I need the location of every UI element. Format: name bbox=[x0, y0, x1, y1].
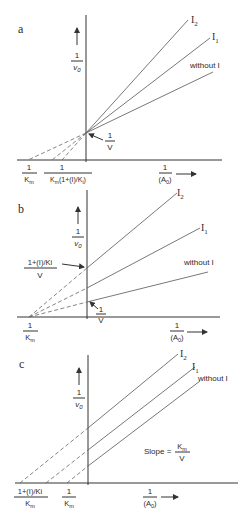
intercept-label-num: 1 bbox=[99, 305, 104, 314]
x-tick-den: Km bbox=[25, 333, 35, 343]
panel-c: c 1 v0 I2 I1 without I Slope = Km V 1+(I… bbox=[14, 348, 238, 509]
y-axis-label-num: 1 bbox=[76, 227, 81, 236]
y-axis-label-den: v0 bbox=[73, 63, 81, 73]
x-tick-num: 1+(I)/Ki bbox=[18, 487, 43, 496]
y-axis-label-num: 1 bbox=[77, 388, 82, 397]
slope-den: V bbox=[179, 454, 185, 463]
x-axis-label-den: (A0) bbox=[158, 175, 172, 185]
line-label-I1: I1 bbox=[192, 361, 199, 375]
x-tick-num: 1 bbox=[28, 321, 33, 330]
x-tick-num: 1 bbox=[67, 487, 72, 496]
x-axis-label-num: 1 bbox=[148, 487, 153, 496]
x-tick-num: 1 bbox=[60, 163, 65, 172]
x-axis-label-den: (A0) bbox=[170, 333, 184, 343]
panel-label: b bbox=[18, 202, 24, 216]
pointer-arrow-icon bbox=[62, 264, 84, 267]
pointer-arrow-icon bbox=[90, 302, 98, 309]
panel-a: a 1 v0 I2 I1 without I 1 V 1 Km 1 Km(1+(… bbox=[17, 14, 222, 185]
intercept-inhibited-num: 1+(I)/Ki bbox=[28, 258, 53, 267]
line-label-I2: I2 bbox=[177, 187, 184, 201]
intercept-label-num: 1 bbox=[108, 131, 113, 140]
x-tick-den: Km bbox=[25, 499, 35, 509]
x-axis-label-num: 1 bbox=[175, 321, 180, 330]
x-axis-label-num: 1 bbox=[163, 163, 168, 172]
x-tick-den: Km bbox=[64, 499, 74, 509]
intercept-inhibited-den: V bbox=[37, 271, 43, 280]
y-axis-label-num: 1 bbox=[75, 51, 80, 60]
panel-label: c bbox=[19, 357, 24, 371]
line-label-without-I: without I bbox=[189, 61, 220, 70]
line-without-I bbox=[87, 272, 208, 302]
line-label-I1: I1 bbox=[201, 222, 208, 236]
x-tick-den: Km bbox=[24, 175, 34, 185]
line-I1 bbox=[88, 367, 195, 450]
intercept-label-den: V bbox=[107, 143, 113, 152]
line-label-I2: I2 bbox=[191, 14, 198, 28]
line-without-I bbox=[86, 72, 213, 133]
intercept-label-den: V bbox=[98, 316, 104, 325]
y-axis-label-den: v0 bbox=[74, 239, 82, 249]
slope-num: Km bbox=[177, 442, 187, 452]
x-tick-den: Km(1+(I)/Ki) bbox=[50, 176, 86, 185]
panel-b: b 1 v0 I2 I1 without I 1+(I)/Ki V 1 V 1 … bbox=[17, 187, 220, 343]
x-axis-label-den: (A0) bbox=[143, 499, 157, 509]
panel-label: a bbox=[18, 22, 24, 36]
line-I2 bbox=[86, 20, 188, 133]
slope-label: Slope = bbox=[144, 447, 172, 456]
line-label-without-I: without I bbox=[197, 374, 228, 383]
line-I1 bbox=[86, 38, 210, 133]
line-I2 bbox=[87, 193, 177, 268]
x-tick-num: 1 bbox=[27, 163, 32, 172]
line-label-I2: I2 bbox=[180, 348, 187, 362]
pointer-arrow-icon bbox=[89, 134, 103, 140]
line-label-I1: I1 bbox=[212, 31, 219, 45]
y-axis-label-den: v0 bbox=[75, 400, 83, 410]
line-label-without-I: without I bbox=[183, 258, 214, 267]
lineweaver-burk-diagrams: a 1 v0 I2 I1 without I 1 V 1 Km 1 Km(1+(… bbox=[0, 0, 252, 517]
